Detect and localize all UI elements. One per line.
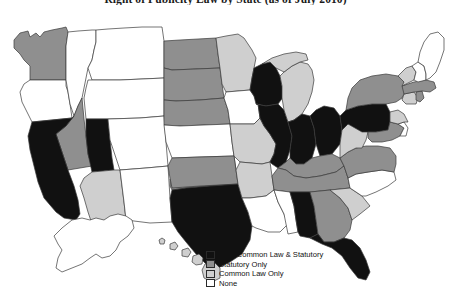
state-AR[interactable]	[236, 162, 274, 198]
legend-label-both: Both Common Law & Statutory	[219, 250, 323, 259]
state-OK2[interactable]	[168, 156, 238, 188]
legend-swatch-both	[206, 251, 215, 259]
legend-label-statutory: Statutory Only	[219, 260, 267, 269]
state-OR[interactable]	[20, 80, 72, 122]
legend-swatch-statutory	[206, 260, 215, 268]
state-NM[interactable]	[120, 166, 172, 223]
state-SD[interactable]	[164, 68, 224, 101]
legend-label-none: None	[219, 279, 237, 288]
state-KS[interactable]	[164, 124, 234, 158]
state-MN[interactable]	[216, 34, 256, 92]
us-map	[0, 6, 451, 288]
state-HI-3[interactable]	[182, 248, 191, 257]
state-MT[interactable]	[88, 27, 164, 80]
legend-swatch-common-law	[206, 270, 215, 278]
legend-label-common-law: Common Law Only	[219, 269, 284, 278]
state-ND[interactable]	[164, 38, 220, 70]
legend-item-both[interactable]: Both Common Law & Statutory	[206, 250, 346, 259]
legend-item-none[interactable]: None	[206, 279, 346, 288]
legend: Both Common Law & Statutory Statutory On…	[206, 250, 346, 288]
figure-container: Right of Publicity Law by State (as of J…	[0, 0, 451, 288]
state-WA[interactable]	[14, 27, 68, 80]
legend-item-common-law[interactable]: Common Law Only	[206, 269, 346, 278]
state-HI-2[interactable]	[170, 242, 178, 250]
state-AK[interactable]	[54, 214, 134, 272]
state-NE[interactable]	[164, 98, 230, 126]
state-WY[interactable]	[84, 78, 164, 119]
state-CO[interactable]	[108, 116, 168, 170]
legend-item-statutory[interactable]: Statutory Only	[206, 260, 346, 269]
chart-title: Right of Publicity Law by State (as of J…	[0, 0, 451, 5]
state-NJ[interactable]	[390, 110, 408, 124]
us-map-svg	[0, 6, 451, 288]
state-HI-1[interactable]	[159, 238, 165, 244]
state-RI[interactable]	[416, 91, 424, 102]
legend-swatch-none	[206, 279, 215, 287]
